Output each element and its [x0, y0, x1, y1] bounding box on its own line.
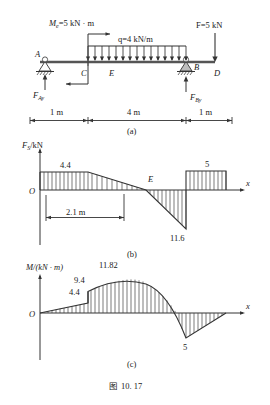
figure-10-17: Me=5 kN · m q=4 kN/m F=5 kN A C E B D FA…	[0, 0, 270, 405]
udl-label: q=4 kN/m	[118, 34, 153, 44]
moment-value-max: 11.82	[99, 260, 118, 270]
moment-label: Me=5 kN · m	[48, 18, 94, 29]
shear-hatch-bd	[190, 171, 226, 190]
figure-caption: 图10. 17	[109, 381, 142, 391]
reaction-a-label: FAy	[32, 90, 45, 101]
shear-value-left: 4.4	[60, 160, 71, 170]
moment-hatch-bd	[179, 313, 222, 338]
dim-label-1: 1 m	[50, 107, 63, 117]
node-label-a: A	[34, 49, 41, 59]
shear-value-min: 11.6	[170, 233, 185, 243]
panel-b-tag: (b)	[127, 249, 137, 259]
panel-a-tag: (a)	[127, 126, 137, 136]
shear-x-label: x	[245, 178, 250, 188]
dim-label-3: 1 m	[199, 107, 212, 117]
panel-c-moment-diagram: M/(kN · m) O x 11.82 9.4 4.4 5 (c)	[25, 260, 250, 369]
distributed-load-q	[86, 46, 188, 61]
node-label-e: E	[108, 68, 115, 78]
moment-axis-label: M/(kN · m)	[25, 262, 63, 272]
reaction-b-arrow	[184, 76, 189, 92]
panel-c-tag: (c)	[127, 359, 137, 369]
moment-value-c-right: 9.4	[74, 275, 85, 285]
shear-axis-label: FS/kN	[21, 140, 43, 151]
shear-x-axis-arrow	[240, 188, 245, 192]
moment-x-label: x	[245, 301, 250, 311]
moment-y-axis-arrow	[38, 274, 42, 279]
point-load-label: F=5 kN	[196, 20, 222, 30]
shear-hatch-ac	[44, 172, 88, 190]
reaction-b-label: FBy	[189, 92, 202, 103]
moment-value-min: 5	[183, 342, 187, 352]
reaction-a-arrow	[43, 74, 48, 90]
node-label-c: C	[81, 68, 87, 78]
node-label-d: D	[213, 68, 221, 78]
node-label-b: B	[194, 62, 199, 72]
panel-b-shear-diagram: FS/kN O x 4.4 E 11.6 5 2.1 m (b)	[21, 140, 250, 259]
dimension-line	[30, 117, 232, 124]
shear-origin-label: O	[29, 186, 35, 196]
point-load-f	[212, 33, 217, 62]
shear-value-right: 5	[205, 159, 209, 169]
shear-dim-label: 2.1 m	[66, 207, 86, 217]
moment-x-axis-arrow	[240, 311, 245, 315]
shear-node-e-label: E	[147, 174, 154, 184]
dim-label-2: 4 m	[127, 107, 140, 117]
moment-origin-label: O	[29, 309, 35, 319]
moment-value-c-left: 4.4	[69, 287, 80, 297]
panel-a-beam-diagram: Me=5 kN · m q=4 kN/m F=5 kN A C E B D FA…	[30, 18, 232, 136]
support-a-pin	[36, 57, 54, 75]
